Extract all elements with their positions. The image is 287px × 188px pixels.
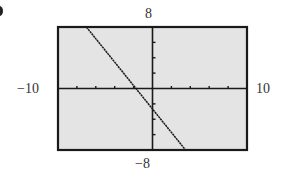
graph-window: [0, 0, 287, 188]
